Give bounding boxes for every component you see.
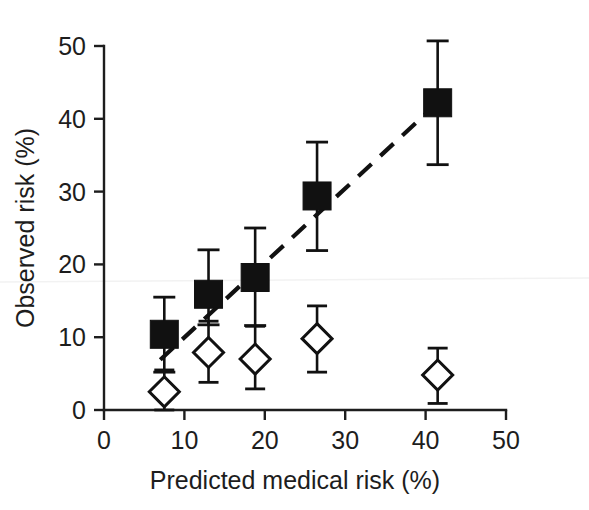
marker-filled-square bbox=[150, 320, 178, 348]
marker-open-diamond bbox=[194, 337, 224, 367]
x-tick-label-0: 0 bbox=[97, 426, 111, 454]
y-axis-ticks bbox=[94, 46, 104, 410]
marker-open-diamond bbox=[149, 377, 179, 407]
marker-open-diamond bbox=[240, 344, 270, 374]
chart-figure: 50 40 30 20 10 0 0 10 20 30 40 50 Predic… bbox=[0, 0, 589, 510]
datapoint-open-diamond-5 bbox=[423, 348, 453, 403]
chart-canvas: 50 40 30 20 10 0 0 10 20 30 40 50 Predic… bbox=[0, 0, 589, 510]
y-axis-title: Observed risk (%) bbox=[11, 128, 39, 328]
y-tick-label-10: 10 bbox=[58, 323, 86, 351]
datapoint-open-diamond-1 bbox=[149, 370, 179, 410]
datapoint-filled-square-2 bbox=[195, 250, 223, 325]
datapoint-filled-square-5 bbox=[424, 41, 452, 165]
scan-artifact bbox=[0, 278, 589, 282]
datapoint-filled-square-1 bbox=[150, 297, 178, 372]
marker-filled-square bbox=[424, 89, 452, 117]
x-axis-ticks bbox=[104, 410, 506, 420]
x-axis-title: Predicted medical risk (%) bbox=[150, 466, 440, 494]
data-layer bbox=[149, 41, 452, 410]
y-tick-label-0: 0 bbox=[72, 396, 86, 424]
x-tick-label-40: 40 bbox=[412, 426, 440, 454]
series-open-diamond-series bbox=[149, 306, 452, 410]
y-tick-label-30: 30 bbox=[58, 178, 86, 206]
series-filled-square-series bbox=[150, 41, 451, 372]
x-tick-label-10: 10 bbox=[170, 426, 198, 454]
marker-filled-square bbox=[303, 182, 331, 210]
datapoint-open-diamond-3 bbox=[240, 326, 270, 389]
datapoint-open-diamond-4 bbox=[302, 306, 332, 372]
marker-open-diamond bbox=[302, 324, 332, 354]
datapoint-filled-square-4 bbox=[303, 142, 331, 250]
y-tick-label-20: 20 bbox=[58, 250, 86, 278]
y-axis-tick-labels: 50 40 30 20 10 0 bbox=[58, 32, 86, 424]
y-tick-label-50: 50 bbox=[58, 32, 86, 60]
marker-filled-square bbox=[241, 264, 269, 292]
x-axis-tick-labels: 0 10 20 30 40 50 bbox=[97, 426, 520, 454]
x-tick-label-20: 20 bbox=[251, 426, 279, 454]
marker-filled-square bbox=[195, 280, 223, 308]
marker-open-diamond bbox=[423, 360, 453, 390]
y-tick-label-40: 40 bbox=[58, 105, 86, 133]
x-tick-label-50: 50 bbox=[492, 426, 520, 454]
x-tick-label-30: 30 bbox=[331, 426, 359, 454]
datapoint-filled-square-3 bbox=[241, 228, 269, 326]
datapoint-open-diamond-2 bbox=[194, 321, 224, 382]
